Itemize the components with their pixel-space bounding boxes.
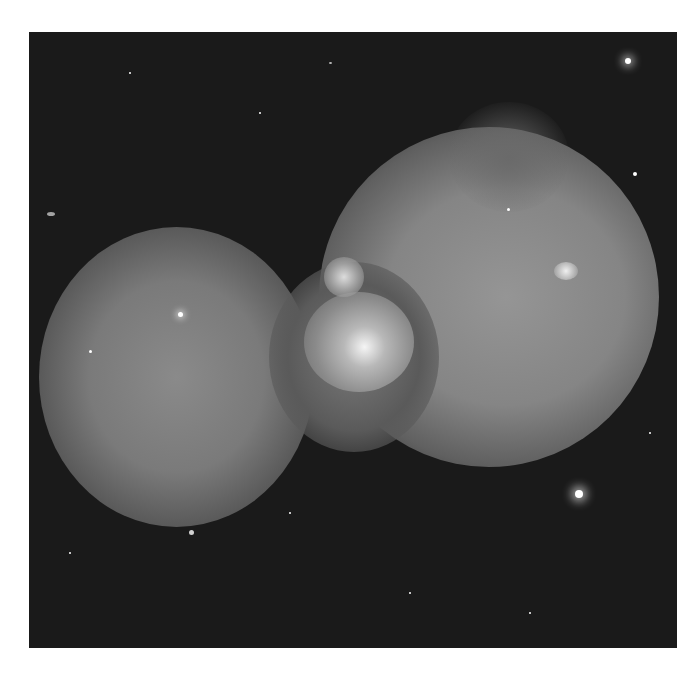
bright-star: [575, 490, 583, 498]
star: [329, 62, 332, 64]
right-knot: [554, 262, 578, 280]
star: [507, 208, 510, 211]
star: [69, 552, 71, 554]
star: [633, 172, 637, 176]
star: [259, 112, 261, 114]
upper-knot: [324, 257, 364, 297]
star: [89, 350, 92, 353]
central-core: [304, 292, 414, 392]
right-lobe-plume: [449, 102, 569, 212]
star: [47, 212, 55, 216]
star: [189, 530, 194, 535]
star: [409, 592, 411, 594]
star: [649, 432, 651, 434]
bright-star: [178, 312, 183, 317]
star: [289, 512, 291, 514]
star: [529, 612, 531, 614]
bright-star: [625, 58, 631, 64]
nebula-photo: [29, 32, 677, 648]
star: [129, 72, 131, 74]
